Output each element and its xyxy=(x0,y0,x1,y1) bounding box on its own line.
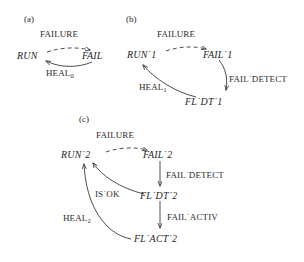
arrow-a-heal xyxy=(46,61,92,66)
panel-label-a: (a) xyxy=(24,14,34,24)
edge-label-c-is-ok: IS˙OK xyxy=(95,189,120,199)
edge-label-a-heal-text: HEAL xyxy=(46,68,70,78)
arrow-b-fail-detect xyxy=(219,60,227,90)
state-fail-1: FAIL˙1 xyxy=(203,49,232,60)
edge-label-c-heal: HEAL2 xyxy=(63,213,91,223)
arrow-b-heal xyxy=(143,65,196,97)
arrow-c-failure xyxy=(106,148,147,152)
state-run-1: RUN˙1 xyxy=(127,49,156,60)
panel-label-c: (c) xyxy=(79,114,89,124)
state-fl-act-2: FL˙ACT˙2 xyxy=(134,233,177,244)
edge-label-b-heal-text: HEAL xyxy=(139,82,163,92)
edge-label-b-heal: HEAL1 xyxy=(139,82,167,92)
arrow-c-heal xyxy=(84,164,131,239)
edge-label-c-failure: FAILURE xyxy=(96,130,134,140)
edge-label-c-heal-subscript: 2 xyxy=(87,217,90,224)
edge-label-c-heal-text: HEAL xyxy=(63,213,87,223)
arrow-layer xyxy=(0,0,304,262)
edge-label-a-heal: HEAL0 xyxy=(46,68,74,78)
state-fl-dt-1: FL˙DT˙1 xyxy=(185,96,223,107)
edge-label-c-fail-activ: FAIL˙ACTIV xyxy=(167,212,218,222)
edge-label-a-heal-subscript: 0 xyxy=(70,72,73,79)
edge-label-a-failure: FAILURE xyxy=(40,29,78,39)
arrow-b-failure xyxy=(166,47,206,51)
edge-label-b-failure: FAILURE xyxy=(157,29,195,39)
state-fl-dt-2: FL˙DT˙2 xyxy=(140,190,178,201)
state-fail: FAIL xyxy=(82,50,103,61)
edge-label-b-heal-subscript: 1 xyxy=(163,86,166,93)
panel-label-b: (b) xyxy=(126,14,137,24)
state-run-2: RUN˙2 xyxy=(61,149,90,160)
state-run: RUN xyxy=(17,50,38,61)
state-fail-2: FAIL˙2 xyxy=(143,149,172,160)
edge-label-b-fail-detect: FAIL˙DETECT xyxy=(229,74,287,84)
state-transition-figure: (a) FAILURE RUN FAIL HEAL0 (b) FAILURE R… xyxy=(0,0,304,262)
edge-label-c-fail-detect: FAIL˙DETECT xyxy=(166,170,224,180)
